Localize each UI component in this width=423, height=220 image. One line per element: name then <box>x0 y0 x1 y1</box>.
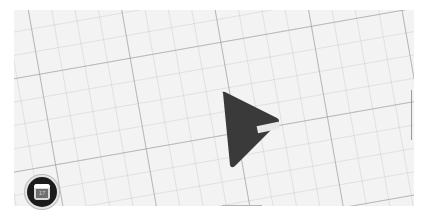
map-grid <box>14 10 414 206</box>
divider <box>222 205 262 206</box>
navigation-arrow-icon[interactable] <box>219 90 283 170</box>
map-canvas[interactable] <box>14 10 414 206</box>
calendar-icon: 17 <box>34 184 50 200</box>
scrollbar-track[interactable] <box>411 90 412 140</box>
calendar-button[interactable]: 17 <box>27 177 57 207</box>
